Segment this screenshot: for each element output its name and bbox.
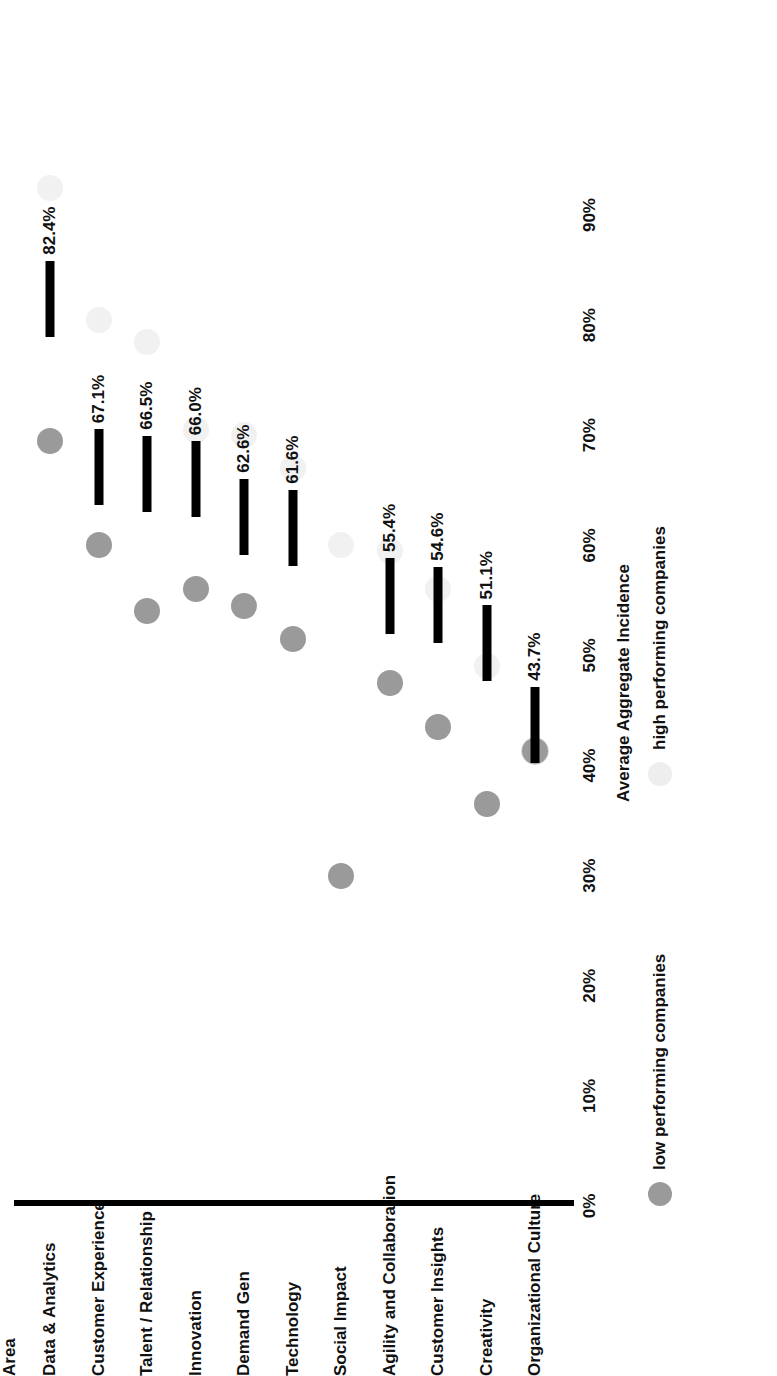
value-bar [143, 436, 152, 512]
value-bar [531, 687, 540, 763]
value-bar [482, 605, 491, 681]
category-label: Talent / Relationship [137, 1212, 157, 1376]
low-performing-marker [280, 626, 306, 652]
legend-item[interactable]: high performing companies [648, 526, 672, 786]
value-axis-tick: 20% [580, 969, 600, 1003]
value-axis-tick: 80% [580, 308, 600, 342]
value-axis-tick: 90% [580, 198, 600, 232]
value-bar [94, 429, 103, 505]
low-performing-marker [134, 598, 160, 624]
low-performing-marker [425, 714, 451, 740]
high-performing-marker [86, 307, 112, 333]
high-performing-marker [328, 532, 354, 558]
high-performing-marker [37, 175, 63, 201]
value-label: 55.4% [380, 504, 400, 552]
chart-canvas: Area Data & AnalyticsCustomer Experience… [0, 0, 777, 1376]
value-bar [288, 490, 297, 566]
high-performing-swatch-icon [648, 762, 672, 786]
value-axis-tick: 50% [580, 638, 600, 672]
category-axis: Area Data & AnalyticsCustomer Experience… [14, 1208, 574, 1376]
value-axis-tick: 40% [580, 749, 600, 783]
value-label: 54.6% [428, 513, 448, 561]
value-label: 51.1% [477, 551, 497, 599]
value-bar [385, 558, 394, 634]
value-bar [434, 567, 443, 643]
value-label: 61.6% [283, 436, 303, 484]
high-performing-marker [134, 329, 160, 355]
value-axis-tick: 60% [580, 528, 600, 562]
category-axis-title: Area [0, 1208, 20, 1376]
category-label: Organizational Culture [525, 1212, 545, 1376]
category-label: Social Impact [331, 1212, 351, 1376]
legend-label: low performing companies [650, 954, 670, 1170]
low-performing-marker [183, 576, 209, 602]
low-performing-marker [86, 532, 112, 558]
category-label: Customer Experience [89, 1212, 109, 1376]
value-axis-tick: 70% [580, 418, 600, 452]
low-performing-swatch-icon [648, 1182, 672, 1206]
rotated-chart-canvas: Area Data & AnalyticsCustomer Experience… [0, 0, 777, 1376]
value-bar [191, 441, 200, 517]
legend-item[interactable]: low performing companies [648, 954, 672, 1206]
value-label: 43.7% [525, 633, 545, 681]
value-label: 66.5% [137, 382, 157, 430]
low-performing-marker [474, 791, 500, 817]
value-label: 62.6% [234, 425, 254, 473]
low-performing-marker [231, 593, 257, 619]
category-label: Agility and Collaboration [380, 1212, 400, 1376]
low-performing-marker [328, 863, 354, 889]
value-axis-tick: 10% [580, 1079, 600, 1113]
value-bar [46, 261, 55, 337]
category-label: Technology [283, 1212, 303, 1376]
category-label: Innovation [186, 1212, 206, 1376]
low-performing-marker [37, 428, 63, 454]
value-label: 82.4% [40, 207, 60, 255]
value-axis-tick: 0% [580, 1194, 600, 1219]
value-axis-tick: 30% [580, 859, 600, 893]
category-label: Data & Analytics [40, 1212, 60, 1376]
legend-label: high performing companies [650, 526, 670, 750]
plot-area: 82.4%67.1%66.5%66.0%62.6%61.6%55.4%54.6%… [14, 160, 574, 1206]
value-bar [240, 479, 249, 555]
value-axis-title: Average Aggregate Incidence [614, 160, 634, 1206]
category-label: Demand Gen [234, 1212, 254, 1376]
value-axis-spine [14, 1200, 574, 1206]
value-label: 66.0% [186, 387, 206, 435]
value-label: 67.1% [89, 375, 109, 423]
low-performing-marker [377, 670, 403, 696]
chart-legend: low performing companieshigh performing … [648, 160, 708, 1206]
category-label: Creativity [477, 1212, 497, 1376]
category-label: Customer Insights [428, 1212, 448, 1376]
